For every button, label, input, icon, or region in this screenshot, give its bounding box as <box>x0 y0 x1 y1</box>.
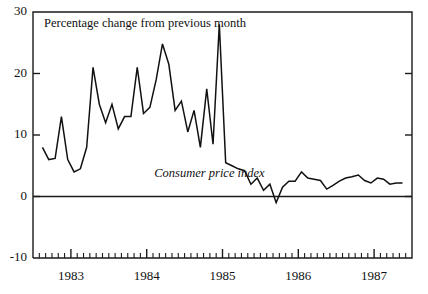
series-annotation-0: Consumer price index <box>154 166 265 180</box>
chart-container: -10010203019831984198519861987Percentage… <box>0 0 428 294</box>
plot-frame <box>33 12 412 258</box>
y-tick-label--10: -10 <box>10 249 27 264</box>
y-tick-label-20: 20 <box>14 65 27 80</box>
y-tick-label-0: 0 <box>21 188 28 203</box>
x-tick-label-1983: 1983 <box>58 268 84 283</box>
x-tick-label-1986: 1986 <box>285 268 312 283</box>
y-tick-label-10: 10 <box>14 126 27 141</box>
x-tick-label-1987: 1987 <box>361 268 388 283</box>
chart-title: Percentage change from previous month <box>44 16 247 30</box>
line-chart: -10010203019831984198519861987Percentage… <box>0 0 428 294</box>
x-tick-label-1984: 1984 <box>134 268 161 283</box>
x-tick-label-1985: 1985 <box>210 268 236 283</box>
y-tick-label-30: 30 <box>14 3 27 18</box>
